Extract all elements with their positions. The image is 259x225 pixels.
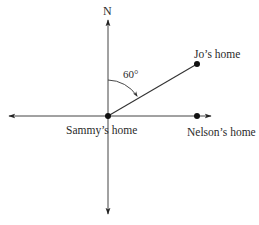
jo-home-dot — [194, 61, 200, 67]
sammy-home-label: Sammy’s home — [66, 124, 137, 136]
jo-home-label: Jo’s home — [194, 48, 240, 60]
diagram-canvas — [0, 0, 259, 225]
angle-arc — [108, 80, 137, 96]
bearing-line-jo — [108, 64, 197, 116]
nelson-home-dot — [194, 113, 200, 119]
sammy-home-dot — [105, 113, 111, 119]
nelson-home-label: Nelson’s home — [187, 126, 256, 138]
north-label: N — [103, 5, 112, 17]
angle-label: 60° — [123, 68, 138, 80]
